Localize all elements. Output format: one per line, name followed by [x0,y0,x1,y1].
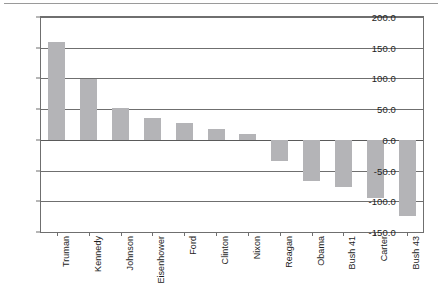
x-axis-label-johnson: Johnson [125,236,135,270]
y-axis-tick-mark [36,17,40,18]
y-axis-tick-label: 150.0 [372,42,396,53]
x-axis-label-kennedy: Kennedy [93,236,103,272]
chart-figure: TrumanKennedyJohnsonEisenhowerFordClinto… [0,0,442,289]
y-axis-tick-mark [36,78,40,79]
gridline--50 [41,171,423,172]
y-axis [0,0,40,289]
y-axis-tick-label: -50.0 [374,165,396,176]
x-axis-label-nixon: Nixon [252,236,262,259]
bar [144,118,161,140]
x-axis-tick-mark [121,232,122,236]
y-axis-tick-label: -150.0 [368,227,396,238]
x-axis-label-eisenhower: Eisenhower [156,236,166,284]
x-axis-tick-mark [343,232,344,236]
x-axis-label-carter: Carter [379,236,389,261]
x-axis-tick-mark [312,232,313,236]
bar [176,123,193,140]
y-axis-tick-label: 100.0 [372,73,396,84]
bar [335,140,352,187]
x-axis-tick-mark [57,232,58,236]
gridline-200 [41,17,423,18]
bar [112,108,129,140]
gridline--150 [41,232,423,233]
bar [271,140,288,162]
x-axis-tick-mark [248,232,249,236]
y-axis-tick-mark [36,232,40,233]
gridline--100 [41,201,423,202]
plot-area [41,17,423,232]
x-axis-tick-mark [184,232,185,236]
y-axis-tick-label: 200.0 [372,12,396,23]
x-axis-label-obama: Obama [316,236,326,266]
y-axis-tick-label: -100.0 [368,196,396,207]
gridline-0 [41,140,423,141]
x-axis-label-ford: Ford [188,236,198,255]
gridline-150 [41,48,423,49]
x-axis-tick-mark [280,232,281,236]
bar [303,140,320,181]
y-axis-tick-mark [36,47,40,48]
x-axis-tick-mark [152,232,153,236]
x-axis-label-bush-41: Bush 41 [347,236,357,269]
bar [80,79,97,140]
gridline-50 [41,109,423,110]
bar [48,42,65,140]
y-axis-tick-mark [36,170,40,171]
x-axis-tick-mark [89,232,90,236]
x-axis-tick-mark [216,232,217,236]
x-axis-label-bush-43: Bush 43 [411,236,421,269]
x-axis-label-clinton: Clinton [220,236,230,264]
gridline-100 [41,78,423,79]
x-axis-label-reagan: Reagan [284,236,294,268]
y-axis-tick-mark [36,139,40,140]
x-axis-tick-mark [407,232,408,236]
bar [208,129,225,140]
bar [239,134,256,140]
bar [399,140,416,216]
y-axis-tick-mark [36,201,40,202]
x-axis-category-labels: TrumanKennedyJohnsonEisenhowerFordClinto… [41,236,423,289]
y-axis-tick-mark [36,109,40,110]
page-rule-divider [4,3,438,4]
y-axis-tick-label: 50.0 [377,104,396,115]
y-axis-tick-label: 0.0 [382,134,396,145]
x-axis-label-truman: Truman [61,236,71,267]
